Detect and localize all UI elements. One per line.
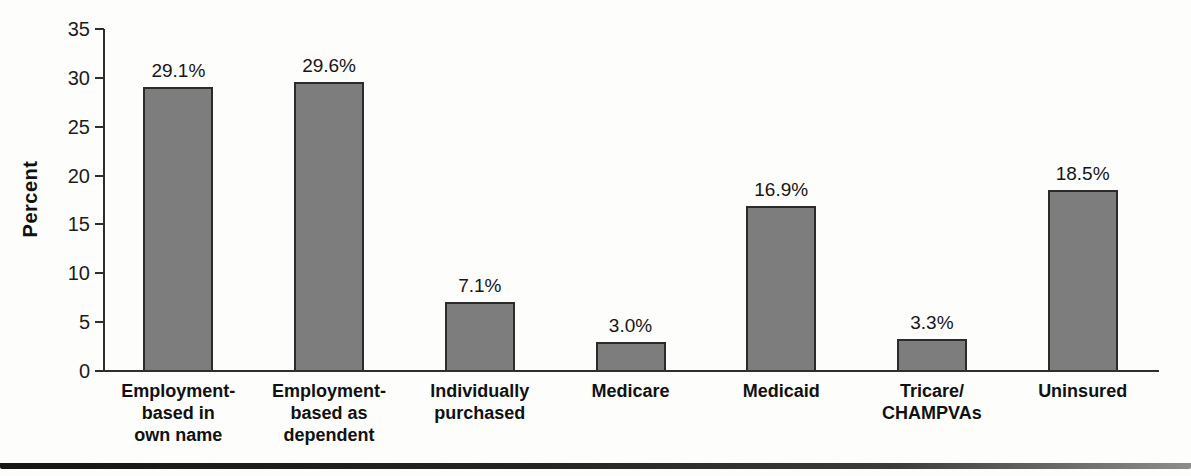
bar-value-label: 16.9% <box>721 180 841 199</box>
y-axis-tick <box>95 223 104 225</box>
y-axis-title: Percent <box>19 161 42 238</box>
bar <box>294 82 364 371</box>
bar-value-label: 3.0% <box>571 316 691 335</box>
y-axis-tick-label: 30 <box>44 68 90 88</box>
bar-value-label: 7.1% <box>420 276 540 295</box>
y-axis-tick-label: 0 <box>44 361 90 381</box>
x-axis-category-label: Uninsured <box>1003 380 1163 402</box>
y-axis-tick-label: 10 <box>44 263 90 283</box>
x-axis-category-label: Medicaid <box>701 380 861 402</box>
y-axis-tick <box>95 77 104 79</box>
y-axis-tick-label: 35 <box>44 19 90 39</box>
y-axis-tick-label: 5 <box>44 312 90 332</box>
x-axis-category-label: Employment- based in own name <box>98 380 258 446</box>
x-axis-line <box>103 370 1159 372</box>
bar <box>1048 190 1118 371</box>
y-axis-tick <box>95 28 104 30</box>
bar <box>596 342 666 371</box>
y-axis-tick-label: 15 <box>44 214 90 234</box>
y-axis-tick <box>95 370 104 372</box>
y-axis-tick <box>95 175 104 177</box>
bar <box>143 87 213 371</box>
bar <box>897 339 967 371</box>
bar-chart-figure: Percent 29.1%29.6%7.1%3.0%16.9%3.3%18.5%… <box>0 0 1191 476</box>
bar-value-label: 18.5% <box>1023 164 1143 183</box>
bar-value-label: 29.6% <box>269 56 389 75</box>
bar-value-label: 3.3% <box>872 313 992 332</box>
y-axis-tick <box>95 272 104 274</box>
y-axis-tick-label: 25 <box>44 117 90 137</box>
plot-area: 29.1%29.6%7.1%3.0%16.9%3.3%18.5% <box>103 29 1158 371</box>
bar <box>746 206 816 371</box>
y-axis-tick <box>95 321 104 323</box>
bar-value-label: 29.1% <box>118 61 238 80</box>
bar <box>445 302 515 371</box>
x-axis-category-label: Employment- based as dependent <box>249 380 409 446</box>
x-axis-category-label: Individually purchased <box>400 380 560 424</box>
y-axis-tick-label: 20 <box>44 166 90 186</box>
x-axis-category-label: Medicare <box>551 380 711 402</box>
y-axis-tick <box>95 126 104 128</box>
x-axis-category-label: Tricare/ CHAMPVAs <box>852 380 1012 424</box>
bottom-rule <box>0 463 1191 469</box>
